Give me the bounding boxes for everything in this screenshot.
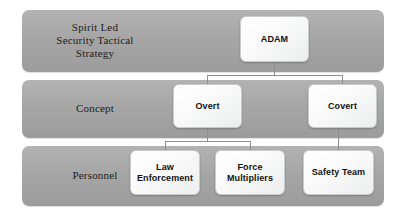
- node-adam-label: ADAM: [261, 34, 288, 45]
- node-safety-team[interactable]: Safety Team: [303, 150, 374, 195]
- node-covert-label: Covert: [328, 101, 357, 112]
- node-force-multipliers[interactable]: Force Multipliers: [215, 150, 285, 195]
- node-covert[interactable]: Covert: [308, 84, 377, 128]
- node-safety-team-label: Safety Team: [312, 167, 365, 178]
- node-law-enforcement[interactable]: Law Enforcement: [130, 150, 200, 195]
- node-law-enforcement-label: Law Enforcement: [137, 162, 193, 184]
- org-chart-diagram: Spirit Led Security Tactical Strategy Co…: [0, 0, 397, 221]
- node-adam[interactable]: ADAM: [240, 16, 309, 62]
- node-overt[interactable]: Overt: [173, 84, 242, 128]
- tier-label-strategy: Spirit Led Security Tactical Strategy: [30, 21, 160, 60]
- tier-label-concept: Concept: [30, 102, 160, 115]
- node-force-multipliers-label: Force Multipliers: [227, 162, 273, 184]
- node-overt-label: Overt: [195, 101, 219, 112]
